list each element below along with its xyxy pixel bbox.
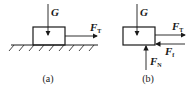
figure-a: G FT (a) (9, 4, 101, 85)
caption-b: (b) (142, 73, 154, 85)
free-body-diagram: G FT (a) G FT Ff FN (b) (0, 0, 189, 102)
caption-a: (a) (42, 73, 53, 85)
ground-hatching (9, 45, 94, 51)
weight-label-b: G (140, 6, 148, 18)
block-b (123, 27, 155, 45)
tension-label-b: FT (171, 20, 183, 33)
friction-label-b: Ff (164, 45, 175, 58)
tension-label-a: FT (89, 21, 101, 34)
weight-label-a: G (51, 6, 59, 18)
figure-b: G FT Ff FN (b) (123, 4, 185, 85)
normal-label-b: FN (149, 55, 162, 68)
block-a (33, 27, 65, 45)
